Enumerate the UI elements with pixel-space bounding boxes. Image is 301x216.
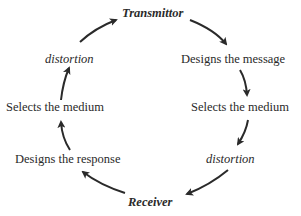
arrow-distortion-to-transmittor (80, 20, 116, 42)
node-distortion-left: distortion (45, 52, 94, 66)
node-receiver: Receiver (128, 195, 172, 209)
arrow-designs-message-to-selects-medium (240, 70, 247, 95)
arrow-designs-response-to-selects-medium (61, 122, 70, 150)
arrow-selects-medium-to-distortion (238, 120, 248, 144)
arrow-receiver-to-designs-response (83, 172, 125, 193)
node-designs-message: Designs the message (181, 52, 285, 66)
node-transmittor: Transmittor (122, 6, 183, 20)
node-selects-medium-left: Selects the medium (6, 100, 104, 114)
arrow-distortion-to-receiver (187, 170, 228, 194)
node-selects-medium-right: Selects the medium (191, 100, 289, 114)
node-designs-response: Designs the response (15, 152, 121, 166)
arrow-selects-medium-to-distortion-left (61, 68, 69, 100)
node-distortion-right: distortion (206, 152, 255, 166)
arrow-transmittor-to-designs-message (190, 20, 226, 44)
